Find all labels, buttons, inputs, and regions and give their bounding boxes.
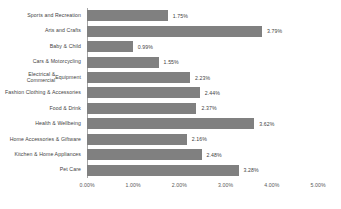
bar-row: 2.23% — [87, 72, 318, 83]
category-label-line: Arts and Crafts — [45, 28, 81, 34]
bar-row: 3.62% — [87, 118, 318, 129]
bar-row: 2.48% — [87, 149, 318, 160]
x-tick-label: 5.00% — [310, 182, 325, 188]
bar — [87, 134, 187, 145]
category-label-line: Fashion Clothing & Accessories — [5, 90, 81, 96]
bar — [87, 149, 202, 160]
x-tick-label: 2.00% — [172, 182, 187, 188]
category-label-line: Home Accessories & Giftware — [10, 137, 81, 143]
x-tick-label: 0.00% — [79, 182, 94, 188]
category-label: Sports and Recreation — [0, 10, 84, 21]
category-label: Fashion Clothing & Accessories — [0, 87, 84, 98]
bar-value-label: 1.55% — [164, 59, 179, 65]
bar-row: 1.55% — [87, 57, 318, 68]
bar — [87, 72, 190, 83]
category-axis-labels: Sports and RecreationArts and CraftsBaby… — [0, 8, 84, 178]
bar-value-label: 2.23% — [195, 75, 210, 81]
bar-row: 2.16% — [87, 134, 318, 145]
category-label: Pet Care — [0, 165, 84, 176]
bar — [87, 26, 262, 37]
category-label: Health & Wellbeing — [0, 118, 84, 129]
bar — [87, 87, 200, 98]
bar — [87, 41, 133, 52]
category-label-line: Food & Drink — [50, 106, 81, 112]
bar-row: 0.99% — [87, 41, 318, 52]
bar-rows: 1.75%3.79%0.99%1.55%2.23%2.44%2.37%3.62%… — [87, 8, 318, 178]
bar-row: 2.37% — [87, 103, 318, 114]
category-label-line: Equipment — [55, 75, 81, 81]
bar-row: 2.44% — [87, 87, 318, 98]
category-label-line: Kitchen & Home Appliances — [14, 152, 81, 158]
plot-area: 1.75%3.79%0.99%1.55%2.23%2.44%2.37%3.62%… — [87, 8, 318, 178]
bar-row: 3.79% — [87, 26, 318, 37]
x-tick-label: 1.00% — [126, 182, 141, 188]
bar — [87, 10, 168, 21]
category-label: Electrical & CommercialEquipment — [0, 72, 84, 83]
category-label-line: Pet Care — [60, 167, 81, 173]
category-label: Food & Drink — [0, 103, 84, 114]
category-label: Cars & Motorcycling — [0, 57, 84, 68]
bar — [87, 57, 159, 68]
category-label: Baby & Child — [0, 41, 84, 52]
bar-value-label: 3.79% — [267, 28, 282, 34]
bar-value-label: 3.62% — [259, 121, 274, 127]
x-tick-label: 3.00% — [218, 182, 233, 188]
x-axis-tick-labels: 0.00%1.00%2.00%3.00%4.00%5.00% — [87, 182, 318, 192]
bar-value-label: 2.37% — [201, 105, 216, 111]
x-tick-label: 4.00% — [264, 182, 279, 188]
bar — [87, 103, 196, 114]
bar-value-label: 2.16% — [192, 136, 207, 142]
bar — [87, 118, 254, 129]
category-label-line: Sports and Recreation — [27, 13, 81, 19]
bar-value-label: 0.99% — [138, 44, 153, 50]
category-label: Arts and Crafts — [0, 26, 84, 37]
bar-value-label: 3.28% — [244, 167, 259, 173]
bar — [87, 165, 239, 176]
bar-chart: Sports and RecreationArts and CraftsBaby… — [0, 0, 341, 209]
category-label: Home Accessories & Giftware — [0, 134, 84, 145]
category-label-line: Electrical & Commercial — [0, 72, 55, 83]
bar-value-label: 1.75% — [173, 13, 188, 19]
category-label-line: Cars & Motorcycling — [33, 59, 81, 65]
bar-value-label: 2.44% — [205, 90, 220, 96]
category-label: Kitchen & Home Appliances — [0, 149, 84, 160]
category-label-line: Baby & Child — [50, 44, 81, 50]
bar-row: 3.28% — [87, 165, 318, 176]
category-label-line: Health & Wellbeing — [35, 121, 81, 127]
bar-value-label: 2.48% — [207, 152, 222, 158]
bar-row: 1.75% — [87, 10, 318, 21]
